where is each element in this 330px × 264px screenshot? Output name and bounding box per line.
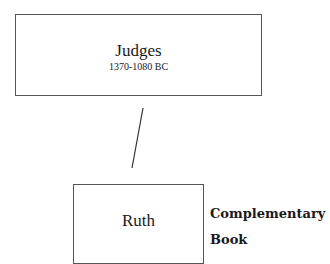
complementary-book-label: Complementary Book [210,201,325,253]
judges-date-range: 1370-1080 BC [16,61,261,73]
ruth-node: Ruth [73,184,204,264]
connector-line [132,108,143,168]
ruth-title: Ruth [74,211,203,231]
judges-title: Judges [16,41,261,61]
judges-node: Judges 1370-1080 BC [15,14,262,96]
annotation-line-1: Complementary [210,201,325,227]
annotation-line-2: Book [210,227,325,253]
